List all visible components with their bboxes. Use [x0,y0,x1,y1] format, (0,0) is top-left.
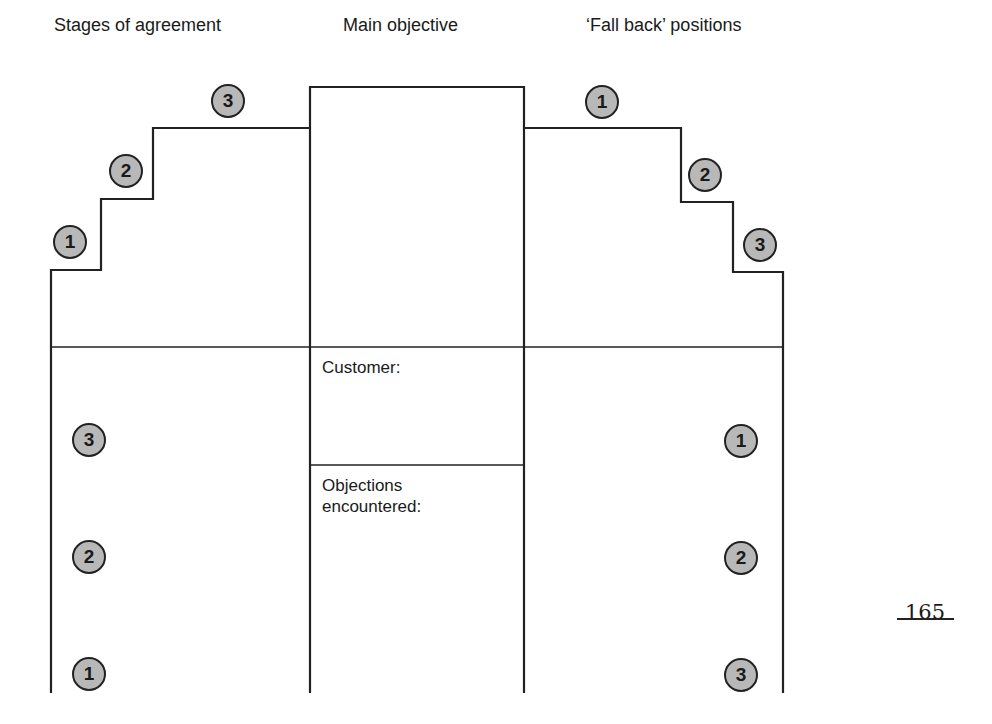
stage-lower-badge-1: 1 [72,657,106,691]
left-staircase [51,128,310,693]
fallback-step-badge-3: 3 [743,228,777,262]
fallback-lower-badge-1: 1 [724,424,758,458]
stage-step-badge-1: 1 [53,225,87,259]
fallback-lower-badge-2: 2 [724,541,758,575]
stage-lower-badge-2: 2 [72,540,106,574]
page-number-rule [897,618,954,620]
objections-label: Objections encountered: [322,475,502,517]
page-number: 165 [905,600,945,624]
fallback-step-badge-2: 2 [688,158,722,192]
right-staircase [524,128,783,693]
stage-step-badge-2: 2 [109,154,143,188]
stage-step-badge-3: 3 [211,84,245,118]
fallback-lower-badge-3: 3 [724,658,758,692]
stage-lower-badge-3: 3 [72,423,106,457]
customer-label: Customer: [322,357,400,378]
main-objective-box [310,87,524,693]
fallback-step-badge-1: 1 [585,85,619,119]
agreement-diagram [0,0,992,724]
